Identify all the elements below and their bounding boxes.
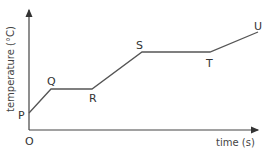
heating-curve-diagram: P Q R S T U O time (s) temperature (°C) [0,0,269,151]
origin-label: O [25,135,34,148]
y-axis-label: temperature (°C) [5,26,16,112]
point-label-r: R [89,92,97,105]
point-label-u: U [254,20,262,33]
point-label-t: T [205,57,213,70]
point-label-q: Q [47,75,56,88]
temperature-curve [29,32,258,113]
point-label-s: S [136,39,143,52]
x-axis-label: time (s) [216,137,255,148]
point-label-p: P [18,109,25,122]
